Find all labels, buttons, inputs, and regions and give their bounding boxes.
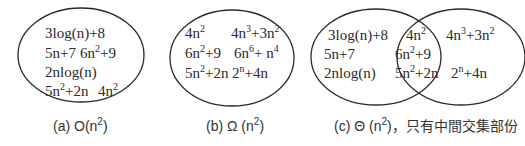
item-2nlogn: 2nlog(n) (45, 64, 97, 81)
caption-a: (a) O(n2) (53, 116, 108, 134)
item-2n-4n: 2n+4n (451, 63, 487, 81)
item-4n2-intersection: 4n2 (406, 25, 426, 43)
item-5n-7: 5n+7 (45, 45, 76, 61)
item-4n3-3n2: 4n3+3n2 (446, 25, 494, 43)
item-5n-7: 5n+7 (324, 46, 355, 62)
item-2nlogn: 2nlog(n) (324, 65, 376, 82)
panel-c-big-theta: 3log(n)+8 5n+7 2nlog(n) 4n2 6n2+9 5n2+2n… (311, 9, 525, 134)
item-5n2-2n: 5n2+2n (185, 63, 229, 81)
item-6n2-9: 6n2+9 (185, 43, 221, 61)
item-6n2-9: 6n2+9 (80, 43, 116, 61)
item-4n2: 4n2 (98, 81, 118, 99)
caption-b: (b) Ω (n2) (206, 116, 264, 134)
complexity-sets-diagram: 3log(n)+8 5n+7 6n2+9 2nlog(n) 5n2+2n 4n2… (0, 0, 525, 146)
item-3logn-8: 3log(n)+8 (328, 27, 388, 44)
panel-a-big-o: 3log(n)+8 5n+7 6n2+9 2nlog(n) 5n2+2n 4n2… (18, 8, 144, 134)
panel-b-big-omega: 4n2 4n3+3n2 6n2+9 6n6+ n4 5n2+2n 2n+4n (… (170, 10, 294, 134)
caption-c: (c) Θ (n2)，只有中間交集部份 (334, 116, 518, 134)
item-6n6-n4: 6n6+ n4 (234, 43, 279, 61)
item-5n2-2n-intersection: 5n2+2n (395, 63, 439, 81)
item-4n2: 4n2 (185, 23, 205, 41)
item-3logn-8: 3log(n)+8 (45, 25, 105, 42)
item-2n-4n: 2n+4n (232, 63, 268, 81)
item-6n2-9-intersection: 6n2+9 (395, 44, 431, 62)
item-5n2-2n: 5n2+2n (45, 81, 89, 99)
item-4n3-3n2: 4n3+3n2 (231, 23, 279, 41)
